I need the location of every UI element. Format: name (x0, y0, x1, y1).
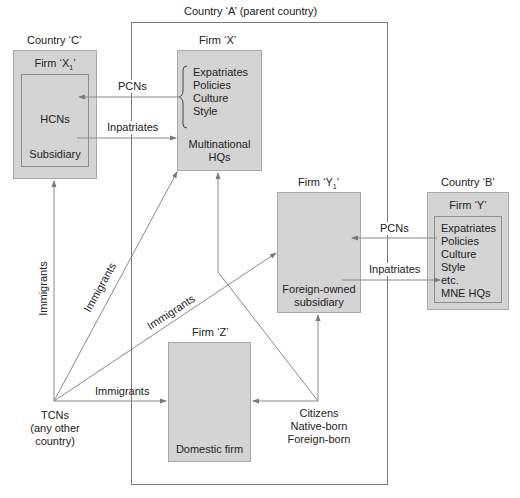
immigrants-to-z-label: Immigrants (95, 385, 149, 398)
immigrants-vertical-label: Immigrants (37, 261, 50, 315)
inpatriates-b-label: Inpatriates (369, 263, 420, 276)
pcns-c-label: PCNs (118, 80, 147, 93)
tcns-label: TCNs (any other country) (24, 409, 86, 448)
diagram-canvas: Country ‘A’ (parent country) Country ‘C’… (0, 0, 520, 498)
citizens-label: Citizens Native-born Foreign-born (284, 407, 354, 446)
pcns-b-label: PCNs (380, 222, 409, 235)
inpatriates-c-label: Inpatriates (107, 121, 158, 134)
